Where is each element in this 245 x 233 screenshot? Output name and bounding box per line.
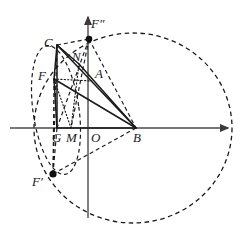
point-label-A: A [95,67,103,80]
point-label-F: F [38,69,46,82]
dashed-segments-layer [53,39,136,174]
point-label-O: O [91,131,100,144]
geometry-canvas [0,0,245,233]
seg-C-F2 [57,39,89,45]
point-dot-F-prime [49,170,56,177]
point-label-C: C [44,36,53,49]
point-label-B: B [133,131,141,144]
point-label-F-double-prime: F″ [91,17,104,30]
geometry-figure: C F″ N A F G M O B F′ [0,0,245,233]
point-label-G: G [52,131,61,144]
seg-F-A [54,79,92,81]
point-dot-F-double-prime [86,36,93,43]
point-label-N: N [72,50,81,63]
point-label-F-prime: F′ [32,175,43,188]
point-label-M: M [66,131,77,144]
seg-C-B [57,45,136,128]
